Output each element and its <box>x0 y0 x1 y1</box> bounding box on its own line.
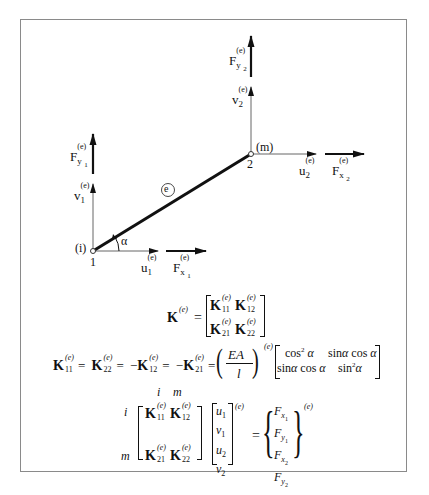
stiffness-matrix-lhs: K(e)= <box>167 308 202 326</box>
system-K-bracket-right <box>197 406 202 460</box>
trig-cell-11: cos2 α <box>285 346 314 361</box>
u2-label: u(e)2 <box>299 164 306 177</box>
angle-label: α <box>121 235 127 247</box>
force-brace-right: } <box>292 398 305 465</box>
disp-vector: u1 v1 u2 v2 <box>216 404 226 482</box>
force-brace-left: { <box>262 398 275 465</box>
disp-bracket-right <box>228 403 233 465</box>
u1-label: u(e)1 <box>141 261 148 274</box>
angle-arc <box>115 237 119 251</box>
submatrix-relation: K(e)11= K(e)22= −K(e)12= −K(e)21= <box>53 358 215 374</box>
v2-label: v(e)2 <box>232 93 239 106</box>
v1-label: v(e)1 <box>74 189 81 202</box>
col-label-i: i <box>157 385 160 400</box>
force-superscript: (e) <box>304 402 313 411</box>
displacement-arrows <box>93 87 316 251</box>
paren-left: ( <box>216 342 223 380</box>
bar-element <box>93 154 251 251</box>
row-label-m: m <box>121 449 130 464</box>
node-1 <box>91 249 96 254</box>
node1-local-label: (i) <box>75 242 86 254</box>
element-label: e <box>164 184 168 194</box>
system-K-row-1: K(e)11K(e)12 <box>145 404 195 422</box>
force-arrows <box>93 36 364 251</box>
matrix-row-1: K(e)11K(e)12 <box>210 296 260 314</box>
factor-superscript: (e) <box>264 342 273 351</box>
matrix-bracket-right <box>260 295 265 337</box>
fy2-label: F(e)y2 <box>229 54 236 67</box>
node2-local-label: (m) <box>256 141 273 153</box>
fy1-label: F(e)y1 <box>70 150 77 163</box>
disp-superscript: (e) <box>235 402 244 411</box>
system-equals: = <box>252 428 260 444</box>
node-2 <box>249 152 254 157</box>
node2-number: 2 <box>247 158 253 170</box>
row-label-i: i <box>124 405 127 420</box>
fraction-numerator: EA <box>228 347 244 363</box>
col-label-m: m <box>173 385 182 400</box>
node1-number: 1 <box>90 256 96 268</box>
fx2-label: F(e)x2 <box>332 164 339 177</box>
force-vector: Fx1 Fy1 Fx2 Fy2 <box>274 404 288 492</box>
trig-cell-22: sin2α <box>338 361 362 376</box>
matrix-row-2: K(e)21K(e)22 <box>210 320 260 338</box>
fraction-denominator: l <box>237 366 241 382</box>
system-K-row-2: K(e)21K(e)22 <box>145 446 195 464</box>
trig-cell-12: sinα cos α <box>328 346 377 361</box>
fx1-label: F(e)x1 <box>173 261 180 274</box>
trig-cell-21: sinα cos α <box>277 361 326 376</box>
paren-right: ) <box>252 342 259 380</box>
fraction-bar <box>226 363 253 364</box>
system-K-bracket-left <box>138 406 143 460</box>
